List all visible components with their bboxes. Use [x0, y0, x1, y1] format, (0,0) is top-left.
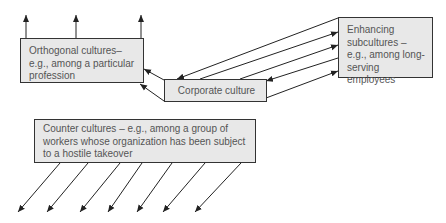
enhancing-subcultures-label: Enhancing subcultures – e.g., among long…: [347, 24, 425, 85]
arrow-down-7: [195, 163, 241, 212]
arrow-corp-orth-2: [140, 84, 164, 101]
arrow-down-5: [137, 163, 172, 212]
counter-cultures-box: Counter cultures – e.g., among a group o…: [34, 119, 256, 163]
arrow-down-3: [80, 163, 120, 212]
arrow-enh-corp-2: [266, 58, 338, 81]
orthogonal-cultures-label: Orthogonal cultures– e.g., among a parti…: [29, 45, 134, 81]
arrow-down-4: [108, 163, 142, 212]
enhancing-subcultures-box: Enhancing subcultures – e.g., among long…: [338, 17, 433, 78]
corporate-culture-label: Corporate culture: [178, 85, 255, 96]
counter-cultures-label: Counter cultures – e.g., among a group o…: [43, 123, 245, 159]
orthogonal-cultures-box: Orthogonal cultures– e.g., among a parti…: [20, 38, 144, 83]
arrow-corp-enh-3: [266, 71, 338, 98]
arrow-corp-orth-1: [144, 69, 164, 80]
arrow-enh-corp-1: [177, 18, 338, 79]
arrow-corp-enh-1: [200, 32, 338, 79]
arrow-down-6: [163, 163, 205, 212]
corporate-culture-box: Corporate culture: [164, 79, 267, 102]
